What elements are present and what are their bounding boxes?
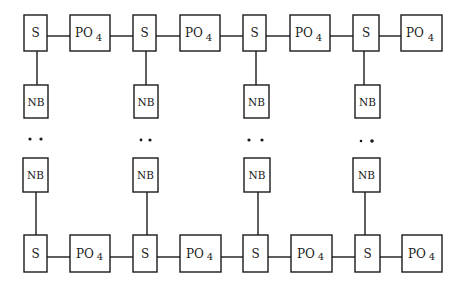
svg-text:PO: PO bbox=[75, 26, 93, 40]
sugar-node: S bbox=[133, 15, 156, 51]
svg-text:4: 4 bbox=[428, 32, 434, 43]
sugar-node: S bbox=[353, 15, 379, 51]
svg-text:PO: PO bbox=[406, 26, 424, 40]
svg-text:S: S bbox=[362, 26, 370, 40]
bond-dot bbox=[39, 137, 42, 140]
phosphate-node: PO 4 bbox=[290, 15, 330, 51]
svg-text:S: S bbox=[31, 26, 39, 40]
svg-text:PO: PO bbox=[295, 26, 313, 40]
phosphate-node: PO 4 bbox=[180, 15, 220, 51]
bond-dot bbox=[370, 139, 374, 143]
svg-text:S: S bbox=[141, 247, 149, 261]
svg-text:NB: NB bbox=[27, 169, 44, 181]
bond-dot bbox=[260, 138, 263, 141]
svg-text:PO: PO bbox=[297, 247, 315, 261]
svg-text:S: S bbox=[251, 247, 259, 261]
svg-text:PO: PO bbox=[76, 247, 94, 261]
svg-text:4: 4 bbox=[429, 251, 435, 262]
svg-text:4: 4 bbox=[97, 251, 103, 262]
svg-text:4: 4 bbox=[206, 32, 212, 43]
svg-text:S: S bbox=[250, 26, 258, 40]
base-node: NB bbox=[134, 85, 158, 118]
phosphate-node: PO 4 bbox=[70, 235, 110, 272]
svg-text:S: S bbox=[140, 26, 148, 40]
svg-text:NB: NB bbox=[249, 169, 266, 181]
base-node: NB bbox=[353, 158, 380, 192]
svg-text:NB: NB bbox=[248, 96, 265, 108]
sugar-node: S bbox=[133, 235, 157, 272]
top-strand: S PO 4 S PO 4 S PO 4 S bbox=[24, 15, 442, 51]
sugar-node: S bbox=[243, 15, 266, 51]
bond-dot bbox=[148, 138, 151, 141]
svg-text:NB: NB bbox=[138, 96, 155, 108]
base-node: NB bbox=[24, 85, 48, 118]
dna-strand-diagram: S PO 4 S PO 4 S PO 4 S bbox=[0, 0, 464, 285]
svg-text:S: S bbox=[31, 247, 39, 261]
phosphate-node: PO 4 bbox=[291, 235, 332, 272]
bottom-bases: NB NB NB NB bbox=[23, 158, 380, 192]
sugar-base-connectors bbox=[36, 51, 365, 235]
sugar-node: S bbox=[355, 235, 380, 272]
svg-text:S: S bbox=[363, 247, 371, 261]
bond-dot bbox=[360, 140, 363, 143]
base-node: NB bbox=[244, 158, 270, 192]
sugar-node: S bbox=[243, 235, 268, 272]
svg-text:4: 4 bbox=[207, 251, 213, 262]
base-node: NB bbox=[23, 158, 48, 192]
bond-dot bbox=[28, 137, 31, 140]
svg-text:PO: PO bbox=[408, 247, 426, 261]
bond-dot bbox=[247, 138, 250, 141]
phosphate-node: PO 4 bbox=[70, 15, 110, 51]
base-node: NB bbox=[133, 158, 158, 192]
phosphate-node: PO 4 bbox=[402, 235, 442, 272]
base-node: NB bbox=[355, 85, 380, 118]
svg-text:NB: NB bbox=[137, 169, 154, 181]
svg-text:PO: PO bbox=[186, 247, 204, 261]
sugar-node: S bbox=[24, 235, 47, 272]
top-bases: NB NB NB NB bbox=[24, 85, 380, 118]
pairing-dots bbox=[28, 137, 373, 142]
svg-text:4: 4 bbox=[318, 251, 324, 262]
svg-text:NB: NB bbox=[358, 169, 375, 181]
phosphate-node: PO 4 bbox=[401, 15, 442, 51]
svg-text:4: 4 bbox=[316, 32, 322, 43]
phosphate-node: PO 4 bbox=[180, 235, 221, 272]
bottom-strand: S PO 4 S PO 4 S PO 4 S bbox=[24, 235, 442, 272]
sugar-node: S bbox=[24, 15, 47, 51]
base-node: NB bbox=[244, 85, 269, 118]
svg-text:NB: NB bbox=[359, 96, 376, 108]
svg-text:NB: NB bbox=[28, 96, 45, 108]
svg-text:PO: PO bbox=[185, 26, 203, 40]
bond-dot bbox=[140, 139, 143, 142]
svg-text:4: 4 bbox=[96, 32, 102, 43]
